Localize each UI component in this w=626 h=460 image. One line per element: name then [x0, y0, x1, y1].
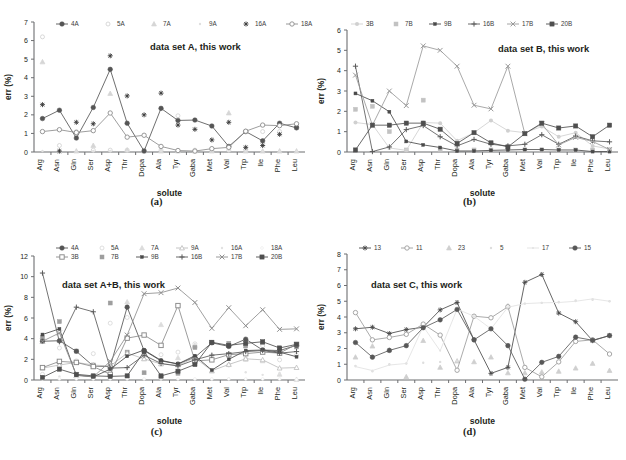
data-point [176, 118, 181, 123]
y-ticks: 012345678 [337, 251, 347, 384]
data-point [125, 121, 130, 126]
legend-item-16A[interactable]: 16A [221, 244, 243, 251]
legend-item-20B[interactable]: 20B [256, 253, 282, 260]
data-point [540, 375, 544, 379]
legend-item-16B[interactable]: 16B [176, 253, 202, 260]
data-point [91, 352, 95, 356]
x-category-label: Ala [467, 158, 476, 170]
legend-item-16A[interactable]: 16A [244, 20, 268, 27]
legend-item-4A[interactable]: 4A [56, 20, 80, 27]
data-point [422, 361, 424, 363]
x-category-label: Phe [273, 159, 282, 172]
data-point [91, 105, 96, 110]
data-point [506, 370, 511, 374]
data-point [294, 122, 298, 126]
x-category-label: Asn [52, 159, 61, 172]
data-point [243, 323, 248, 328]
data-point [227, 378, 230, 381]
series-3B [353, 118, 611, 152]
data-point [227, 358, 230, 361]
legend-item-13[interactable]: 13 [359, 244, 382, 251]
legend-item-7B[interactable]: 7B [100, 253, 119, 260]
data-point [278, 378, 281, 381]
legend-item-9A[interactable]: 9A [199, 20, 218, 27]
data-point [74, 130, 78, 134]
data-point [108, 67, 113, 72]
legend-item-9A[interactable]: 9A [176, 244, 200, 251]
legend-item-17B[interactable]: 17B [507, 20, 533, 27]
x-category-label: Tyr [171, 386, 180, 397]
data-point [438, 127, 442, 131]
data-point [523, 365, 527, 369]
data-point [261, 130, 265, 134]
data-point [260, 255, 264, 259]
x-category-label: Dopa [450, 158, 459, 177]
data-point [244, 22, 249, 27]
series-11 [353, 305, 611, 379]
data-point [261, 150, 263, 152]
legend-item-7A[interactable]: 7A [140, 244, 160, 251]
data-point [260, 123, 264, 127]
data-point [261, 374, 263, 376]
legend-item-9B[interactable]: 9B [429, 20, 452, 27]
legend-item-18A[interactable]: 18A [261, 244, 283, 251]
legend-item-3B[interactable]: 3B [56, 253, 79, 260]
legend-label: 16A [255, 20, 267, 27]
data-point [388, 364, 390, 366]
data-point [227, 343, 231, 347]
data-point [387, 89, 392, 94]
legend-item-23[interactable]: 23 [447, 244, 466, 251]
legend-item-5[interactable]: 5 [490, 244, 504, 251]
legend-item-16B[interactable]: 16B [468, 20, 494, 27]
data-point [209, 326, 214, 331]
x-category-label: Gaba [501, 158, 510, 177]
legend-item-18A[interactable]: 18A [286, 20, 313, 27]
data-point [176, 114, 180, 118]
x-ticks: ArgAsnGlnSerAspThrDopaAlaTyrGabaMetValTr… [35, 152, 298, 177]
legend-item-20B[interactable]: 20B [546, 20, 572, 27]
data-point [573, 339, 577, 343]
data-point [607, 368, 612, 372]
data-point [192, 127, 197, 132]
data-point [438, 48, 443, 53]
x-category-label: Ile [256, 159, 265, 167]
x-category-label: Gln [382, 387, 391, 399]
data-point [573, 319, 578, 324]
series-16A [41, 363, 297, 380]
legend-item-17B[interactable]: 17B [216, 253, 242, 260]
legend-item-7B[interactable]: 7B [394, 20, 413, 27]
data-point [74, 120, 79, 125]
x-category-label: Leu [603, 387, 612, 399]
data-point [388, 110, 391, 113]
data-point [439, 361, 441, 363]
data-point [58, 378, 61, 381]
data-point [523, 148, 526, 151]
legend-item-4A[interactable]: 4A [56, 244, 80, 251]
x-axis-title: solute [157, 416, 183, 426]
data-point [404, 148, 408, 152]
data-point [439, 146, 442, 149]
legend-item-5A[interactable]: 5A [106, 20, 126, 27]
legend-item-7A[interactable]: 7A [152, 20, 172, 27]
data-point [176, 355, 181, 359]
data-point [57, 149, 62, 154]
data-point [575, 300, 577, 302]
legend-item-11[interactable]: 11 [401, 244, 423, 251]
legend-item-5A[interactable]: 5A [100, 244, 120, 251]
data-point [57, 346, 61, 350]
series-4A [40, 305, 299, 369]
data-point [295, 355, 298, 358]
legend-label: 4A [71, 244, 80, 251]
x-ticks: ArgAsnGlnSerAspThrDopaAlaTyrGabaMetValTr… [348, 380, 611, 405]
data-point [607, 352, 611, 356]
legend-item-3B[interactable]: 3B [351, 20, 374, 27]
data-point [489, 118, 493, 122]
legend-item-17[interactable]: 17 [527, 244, 550, 251]
data-point [489, 316, 493, 320]
x-category-label: Ala [467, 386, 476, 398]
data-point [108, 91, 113, 95]
legend-item-9B[interactable]: 9B [136, 253, 159, 260]
data-point [210, 340, 214, 344]
legend-item-15[interactable]: 15 [569, 244, 592, 251]
data-point [523, 132, 527, 136]
